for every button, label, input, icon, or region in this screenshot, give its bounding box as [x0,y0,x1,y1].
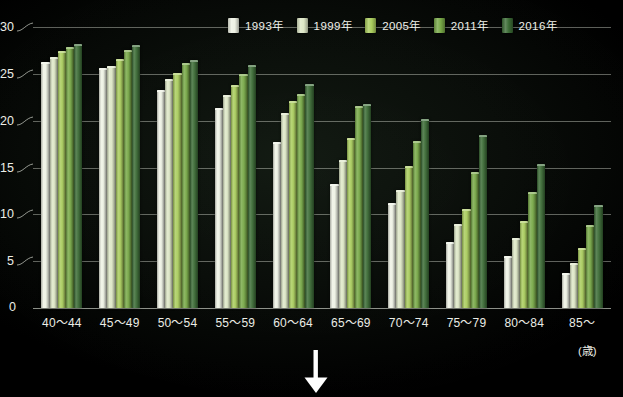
x-axis-label: 40〜44 [33,313,91,330]
bar-group-85〜 [553,27,611,308]
bar [520,221,528,308]
bar-cap [330,184,338,186]
legend-swatch-icon [502,18,513,33]
bar-cap [339,160,347,162]
legend-label: 1999年 [314,17,353,33]
legend-label: 2005年 [382,17,421,33]
legend-swatch-icon [297,18,308,33]
bar [273,142,281,308]
legend-swatch-icon [434,18,445,33]
bar-cap [231,85,239,87]
bar [58,51,66,308]
legend-swatch-icon [228,18,239,33]
bar [355,106,363,308]
plot-area: 51015202530 [33,27,611,308]
bar [578,248,586,308]
bar-group-40〜44 [33,27,91,308]
bar-cap [347,138,355,140]
bar-groups [33,27,611,308]
y-axis-tick-15: 15 [0,161,33,175]
bar-group-80〜84 [495,27,553,308]
y-axis-tick-20: 20 [0,114,33,128]
bar [305,84,313,308]
bar [347,138,355,308]
legend-swatch-icon [365,18,376,33]
bar [454,224,462,308]
legend-item-1999年: 1999年 [297,17,353,33]
bar-cap [132,45,140,47]
bar [446,242,454,308]
y-axis-tick-30: 30 [0,20,33,34]
chart-screenshot: 1993年1999年2005年2011年2016年 51015202530 0 … [0,0,623,397]
bar-cap [454,224,462,226]
bar-cap [355,106,363,108]
bar [74,44,82,308]
bar-group-65〜69 [322,27,380,308]
bar-cap [462,209,470,211]
bar-group-50〜54 [149,27,207,308]
x-axis-labels: 40〜4445〜4950〜5455〜5960〜6465〜6970〜7475〜79… [33,313,611,330]
bar-cap [594,205,602,207]
bar [479,135,487,308]
x-axis-label: 80〜84 [495,313,553,330]
x-axis-label: 55〜59 [206,313,264,330]
bar-cap [446,242,454,244]
y-axis-zero-label: 0 [9,300,16,314]
y-axis-tick-5: 5 [7,254,33,268]
bar [297,94,305,308]
bar-cap [190,60,198,62]
bar-cap [297,94,305,96]
bar-cap [66,47,74,49]
y-axis-tick-label: 10 [0,207,14,221]
gridline-0 [33,308,611,309]
bar-group-75〜79 [438,27,496,308]
bar-cap [471,172,479,174]
bar-cap [41,62,49,64]
legend-label: 2016年 [519,17,558,33]
bar-cap [413,141,421,143]
y-axis-tick-label: 30 [0,20,14,34]
legend-label: 1993年 [245,17,284,33]
bar-cap [512,238,520,240]
bar [330,184,338,308]
bar [289,101,297,308]
bar-cap [273,142,281,144]
x-axis-label: 65〜69 [322,313,380,330]
y-axis-tick-10: 10 [0,207,33,221]
bar-cap [223,95,231,97]
bar-cap [363,104,371,106]
legend-item-2016年: 2016年 [502,17,558,33]
bar [215,108,223,308]
bar-cap [173,73,181,75]
bar [405,166,413,308]
legend-item-1993年: 1993年 [228,17,284,33]
bar-group-45〜49 [91,27,149,308]
down-arrow-icon [303,350,329,394]
legend-item-2005年: 2005年 [365,17,421,33]
y-axis-tick-label: 25 [0,67,14,81]
bar-cap [50,57,58,59]
bar-cap [239,74,247,76]
legend-label: 2011年 [451,17,489,33]
bar-cap [520,221,528,223]
bar [512,238,520,308]
legend-item-2011年: 2011年 [434,17,489,33]
y-axis-tick-25: 25 [0,67,33,81]
bar-cap [586,225,594,227]
bar [388,203,396,308]
bar [223,95,231,308]
bar-cap [165,79,173,81]
bar-cap [405,166,413,168]
bar [173,73,181,308]
x-axis-label: 60〜64 [264,313,322,330]
bar [396,190,404,308]
x-axis-label: 50〜54 [149,313,207,330]
bar [248,65,256,308]
bar [157,90,165,308]
bar [124,50,132,308]
bar [239,74,247,308]
bar [413,141,421,308]
bar [190,60,198,308]
bar-cap [528,192,536,194]
bar-cap [99,68,107,70]
